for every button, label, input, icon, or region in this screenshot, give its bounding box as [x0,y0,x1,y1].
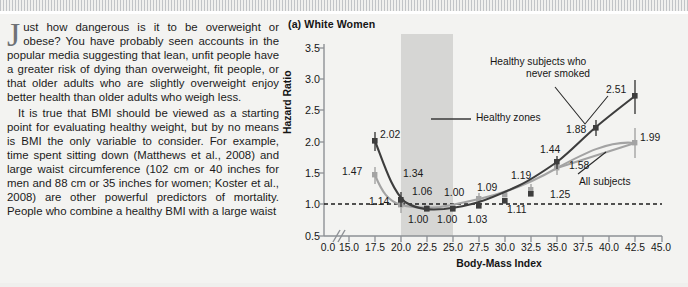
chart-plot-area: Hazard Ratio Body-Mass Index 3.5 3.0 2.5… [288,34,686,274]
article-text-column: Just how dangerous is it to be overweigh… [7,20,279,282]
page-bottom-edge [0,283,688,287]
data-label-1.03: 1.03 [467,214,487,225]
chart-svg [288,34,686,274]
annotation-never-smoked-line1: Healthy subjects who [490,56,586,67]
data-label-1.00-c: 1.00 [437,214,457,225]
data-label-1.19: 1.19 [511,170,531,181]
data-label-1.14: 1.14 [369,196,389,207]
annotation-healthy-zones: Healthy zones [476,112,541,123]
data-label-1.00-a: 1.00 [444,187,464,198]
annotation-never-smoked-line2: never smoked [526,68,590,79]
data-label-1.00-b: 1.00 [408,214,428,225]
never-smoked-leader-line [555,87,608,124]
data-label-1.11: 1.11 [507,204,526,215]
data-label-1.06: 1.06 [412,186,432,197]
data-label-2.02: 2.02 [380,129,400,140]
article-paragraph-1: Just how dangerous is it to be overweigh… [7,20,279,105]
page-top-white-rule [0,11,688,14]
data-label-1.88: 1.88 [566,124,586,135]
article-paragraph-2: It is true that BMI should be viewed as … [7,106,279,219]
article-paragraph-1-text: ust how dangerous is it to be overweight… [7,21,279,103]
chart-y-tick-marks [319,48,324,236]
annotation-all-subjects: All subjects [579,176,631,187]
chart-title: (a) White Women [288,18,375,30]
data-label-1.47: 1.47 [342,166,362,177]
data-label-1.58: 1.58 [569,160,589,171]
data-label-1.09: 1.09 [477,182,497,193]
data-label-1.44: 1.44 [540,144,560,155]
drop-cap: J [7,21,20,48]
data-label-1.34: 1.34 [403,168,423,179]
chart-x-tick-marks [349,236,662,242]
page-root: Just how dangerous is it to be overweigh… [0,0,688,287]
page-top-hatch-band [0,0,688,11]
data-label-1.25: 1.25 [550,189,570,200]
chart-white-women: (a) White Women Hazard Ratio Body-Mass I… [288,18,686,280]
data-label-2.51: 2.51 [606,84,626,95]
data-label-1.99: 1.99 [640,132,660,143]
